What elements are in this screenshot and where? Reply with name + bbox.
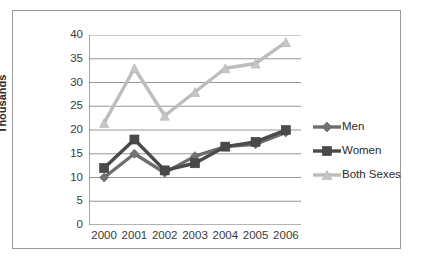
x-tick-label: 2003 bbox=[178, 230, 212, 242]
series-men bbox=[100, 128, 291, 182]
y-tick-label: 35 bbox=[61, 53, 83, 65]
series-women-markers bbox=[100, 126, 291, 175]
y-tick-label: 15 bbox=[61, 148, 83, 160]
x-tick-label: 2002 bbox=[148, 230, 182, 242]
plot-area bbox=[89, 35, 301, 225]
diamond-marker-icon bbox=[313, 120, 341, 134]
x-tick-label: 2000 bbox=[87, 230, 121, 242]
triangle-marker-icon bbox=[313, 168, 341, 182]
gridlines bbox=[89, 35, 301, 201]
legend-item-men[interactable]: Men bbox=[313, 115, 409, 139]
y-tick-label: 25 bbox=[61, 100, 83, 112]
y-tick-label: 20 bbox=[61, 124, 83, 136]
chart-screenshot: Thousands 40 35 30 25 20 15 10 5 0 bbox=[0, 0, 421, 262]
x-tick-label: 2001 bbox=[117, 230, 151, 242]
y-tick-label: 10 bbox=[61, 172, 83, 184]
series-women bbox=[100, 126, 291, 175]
legend-item-both-sexes[interactable]: Both Sexes bbox=[313, 163, 409, 187]
y-tick-label: 0 bbox=[61, 219, 83, 231]
x-tick-label: 2004 bbox=[208, 230, 242, 242]
y-tick-label: 5 bbox=[61, 195, 83, 207]
y-axis-tick-labels: 40 35 30 25 20 15 10 5 0 bbox=[57, 35, 83, 225]
legend-label-both-sexes: Both Sexes bbox=[341, 169, 401, 181]
x-axis-tick-labels: 2000 2001 2002 2003 2004 2005 2006 bbox=[89, 230, 301, 252]
legend-label-women: Women bbox=[341, 145, 381, 157]
legend-label-men: Men bbox=[341, 121, 364, 133]
y-axis-title: Thousands bbox=[0, 39, 11, 169]
square-marker-icon bbox=[313, 144, 341, 158]
series-men-markers bbox=[100, 128, 291, 182]
y-tick-label: 40 bbox=[61, 29, 83, 41]
plot-canvas bbox=[89, 35, 301, 225]
chart-legend: Men Women Both Sexes bbox=[313, 115, 409, 187]
y-axis-title-label: Thousands bbox=[0, 75, 8, 134]
y-tick-label: 30 bbox=[61, 77, 83, 89]
x-tick-label: 2005 bbox=[239, 230, 273, 242]
chart-frame: Thousands 40 35 30 25 20 15 10 5 0 bbox=[12, 10, 401, 249]
x-tick-label: 2006 bbox=[269, 230, 303, 242]
legend-item-women[interactable]: Women bbox=[313, 139, 409, 163]
